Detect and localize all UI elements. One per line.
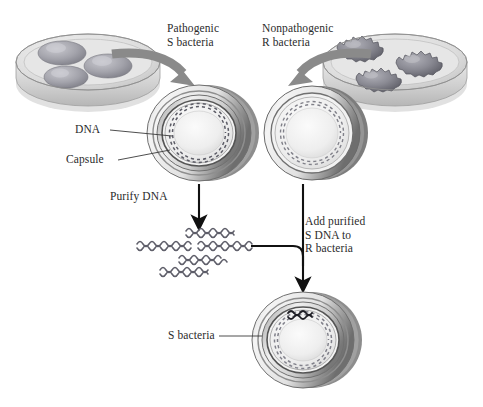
label-purify-dna: Purify DNA bbox=[110, 190, 168, 204]
label-add-purified-s-dna: Add purified S DNA to R bacteria bbox=[305, 215, 365, 256]
label-s-bacteria-result: S bacteria bbox=[168, 329, 215, 343]
diagram-graphics bbox=[0, 0, 483, 407]
label-nonpathogenic-r-bacteria: Nonpathogenic R bacteria bbox=[262, 22, 334, 49]
label-capsule: Capsule bbox=[66, 153, 104, 167]
label-pathogenic-s-bacteria: Pathogenic S bacteria bbox=[167, 22, 219, 49]
s-bacterium-with-capsule bbox=[147, 85, 259, 181]
connector-fragments-to-transform-arrow bbox=[251, 246, 303, 266]
dna-fragment-1 bbox=[186, 229, 234, 238]
dna-fragment-5 bbox=[160, 268, 208, 277]
petri-dish-smooth-colonies bbox=[16, 34, 160, 112]
r-bacterium-no-capsule bbox=[264, 86, 368, 180]
diagram-canvas: Pathogenic S bacteria Nonpathogenic R ba… bbox=[0, 0, 483, 407]
dna-fragment-2 bbox=[137, 242, 191, 251]
transformed-s-bacterium bbox=[252, 292, 362, 388]
label-dna: DNA bbox=[75, 123, 100, 137]
dna-fragment-3 bbox=[198, 242, 252, 251]
dna-fragment-4 bbox=[179, 256, 227, 265]
purified-dna-fragments bbox=[137, 229, 252, 277]
